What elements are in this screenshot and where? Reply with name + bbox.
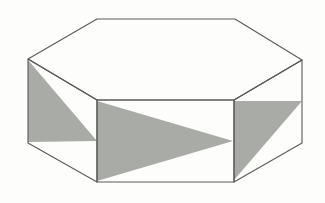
left-face-shaded-triangle [28, 60, 97, 142]
hexagonal-prism-diagram [0, 0, 325, 203]
shaded-triangles [28, 60, 302, 181]
top-hexagon-face [28, 19, 302, 100]
diagram-canvas [0, 0, 325, 203]
right-face-shaded-triangle [234, 101, 302, 180]
front-face-shaded-triangle [97, 101, 233, 181]
